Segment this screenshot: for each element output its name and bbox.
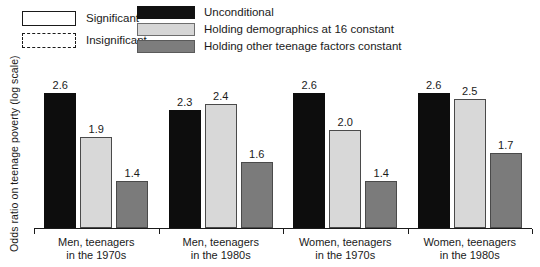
bar-value-label: 2.6 — [418, 79, 450, 91]
category-line-1: Men, teenagers — [26, 236, 166, 249]
bar-value-label: 2.4 — [205, 90, 237, 102]
y-axis-label: Odds ratio on teenage poverty (log scale… — [8, 56, 20, 252]
bar-value-label: 2.3 — [169, 96, 201, 108]
x-axis-category-label: Men, teenagersin the 1970s — [26, 236, 166, 262]
bar[interactable] — [241, 162, 273, 228]
bar-value-label: 1.7 — [490, 139, 522, 151]
bar-value-label: 1.4 — [365, 167, 397, 179]
bar-value-label: 2.0 — [329, 116, 361, 128]
x-axis-tick — [408, 229, 409, 234]
legend-label-unconditional: Unconditional — [204, 6, 274, 19]
category-line-2: in the 1970s — [275, 249, 415, 262]
legend-item-significant: Significant — [22, 10, 152, 27]
bar[interactable] — [169, 110, 201, 228]
bar[interactable] — [490, 153, 522, 228]
bar-group: 2.62.01.4 — [293, 76, 397, 228]
x-axis-end-tick — [532, 229, 533, 234]
category-line-2: in the 1980s — [151, 249, 291, 262]
bar-value-label: 1.9 — [80, 123, 112, 135]
category-line-1: Women, teenagers — [275, 236, 415, 249]
x-axis-category-label: Women, teenagersin the 1970s — [275, 236, 415, 262]
legend-item-insignificant: Insignificant — [22, 32, 152, 49]
legend-swatch-teenage-factors — [137, 40, 195, 53]
bar-group: 2.62.51.7 — [418, 76, 522, 228]
category-line-2: in the 1980s — [400, 249, 540, 262]
bar-value-label: 1.4 — [116, 167, 148, 179]
bar[interactable] — [454, 99, 486, 228]
legend-significance-group: Significant Insignificant — [22, 10, 152, 54]
bar[interactable] — [329, 130, 361, 228]
bar[interactable] — [205, 104, 237, 228]
bar[interactable] — [418, 93, 450, 228]
bar[interactable] — [80, 137, 112, 228]
legend-swatch-insignificant — [22, 33, 76, 48]
bar-value-label: 2.6 — [293, 79, 325, 91]
bar-value-label: 2.5 — [454, 85, 486, 97]
bar-value-label: 2.6 — [44, 79, 76, 91]
legend-item-unconditional: Unconditional — [137, 5, 537, 19]
chart-legend: Significant Insignificant Unconditional … — [0, 0, 540, 72]
plot-area: 2.61.91.42.32.41.62.62.01.42.62.51.7 — [34, 76, 532, 228]
legend-swatch-demographics — [137, 23, 195, 36]
x-axis-category-label: Women, teenagersin the 1980s — [400, 236, 540, 262]
legend-label-demographics: Holding demographics at 16 constant — [204, 23, 394, 36]
legend-swatch-unconditional — [137, 6, 195, 19]
bar[interactable] — [116, 181, 148, 229]
bar-group: 2.32.41.6 — [169, 76, 273, 228]
legend-swatch-significant — [22, 11, 76, 26]
category-line-1: Women, teenagers — [400, 236, 540, 249]
legend-label-significant: Significant — [86, 12, 139, 25]
bar[interactable] — [365, 181, 397, 229]
category-line-2: in the 1970s — [26, 249, 166, 262]
legend-label-teenage-factors: Holding other teenage factors constant — [204, 40, 402, 53]
category-line-1: Men, teenagers — [151, 236, 291, 249]
legend-item-teenage-factors: Holding other teenage factors constant — [137, 39, 537, 53]
x-axis-tick — [283, 229, 284, 234]
x-axis-category-label: Men, teenagersin the 1980s — [151, 236, 291, 262]
x-axis-tick — [159, 229, 160, 234]
bar[interactable] — [293, 93, 325, 228]
bar-value-label: 1.6 — [241, 148, 273, 160]
legend-series-group: Unconditional Holding demographics at 16… — [137, 5, 537, 56]
x-axis-end-tick — [34, 229, 35, 234]
bar[interactable] — [44, 93, 76, 228]
legend-item-demographics: Holding demographics at 16 constant — [137, 22, 537, 36]
bar-group: 2.61.91.4 — [44, 76, 148, 228]
